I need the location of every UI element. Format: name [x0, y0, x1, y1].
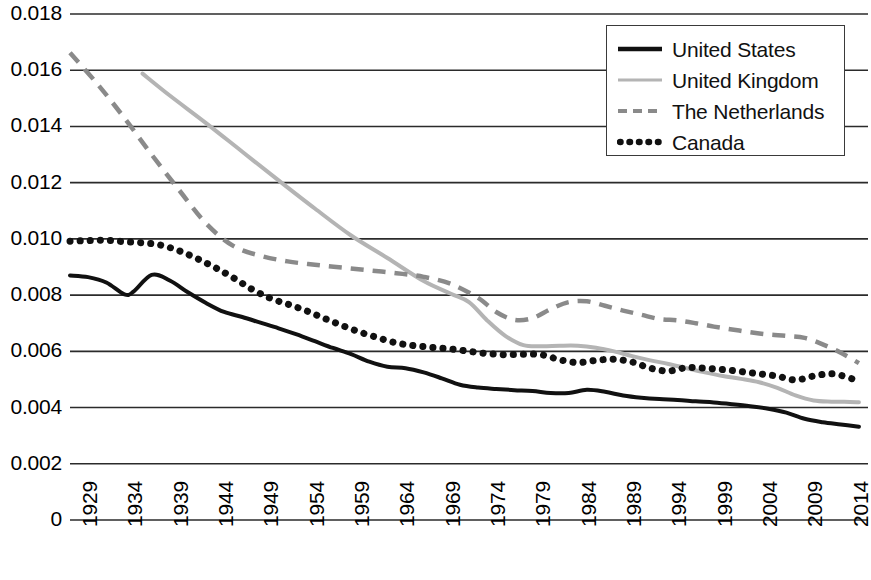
x-tick-label: 1999 [713, 481, 737, 527]
legend: United States United Kingdom The Netherl… [606, 25, 845, 156]
legend-label-the-netherlands: The Netherlands [672, 101, 824, 122]
x-tick-label: 2014 [849, 481, 871, 527]
legend-label-canada: Canada [672, 132, 744, 153]
legend-label-united-states: United States [672, 39, 795, 60]
line-chart: 00.0020.0040.0060.0080.0100.0120.0140.01… [0, 0, 871, 580]
solid-black-line-icon [617, 40, 663, 58]
x-tick-label: 1979 [531, 481, 555, 527]
x-tick-label: 1949 [259, 481, 283, 527]
y-tick-label: 0.016 [0, 57, 62, 81]
y-tick-label: 0.004 [0, 395, 62, 419]
dotted-black-line-icon [617, 133, 663, 151]
y-tick-label: 0.014 [0, 113, 62, 137]
x-tick-label: 1994 [667, 481, 691, 527]
x-tick-label: 1969 [441, 481, 465, 527]
x-tick-label: 1929 [78, 481, 102, 527]
y-tick-label: 0.002 [0, 451, 62, 475]
y-tick-label: 0 [0, 507, 62, 531]
x-tick-label: 2009 [803, 481, 827, 527]
x-tick-label: 1989 [622, 481, 646, 527]
x-tick-label: 1984 [577, 481, 601, 527]
x-tick-label: 1974 [486, 481, 510, 527]
legend-entry-united-states[interactable]: United States [617, 34, 795, 64]
solid-gray-line-icon [617, 71, 663, 89]
legend-entry-the-netherlands[interactable]: The Netherlands [617, 96, 824, 126]
y-tick-label: 0.008 [0, 282, 62, 306]
legend-entry-united-kingdom[interactable]: United Kingdom [617, 65, 819, 95]
x-tick-label: 1954 [305, 481, 329, 527]
x-tick-label: 1959 [350, 481, 374, 527]
y-tick-label: 0.018 [0, 1, 62, 25]
series-line-canada [70, 240, 859, 382]
x-tick-label: 2004 [758, 481, 782, 527]
x-tick-label: 1944 [214, 481, 238, 527]
x-tick-label: 1964 [395, 481, 419, 527]
x-tick-label: 1939 [169, 481, 193, 527]
y-tick-label: 0.006 [0, 338, 62, 362]
x-tick-label: 1934 [123, 481, 147, 527]
legend-entry-canada[interactable]: Canada [617, 127, 744, 157]
y-tick-label: 0.012 [0, 170, 62, 194]
legend-label-united-kingdom: United Kingdom [672, 70, 819, 91]
dashed-gray-line-icon [617, 102, 663, 120]
y-tick-label: 0.010 [0, 226, 62, 250]
